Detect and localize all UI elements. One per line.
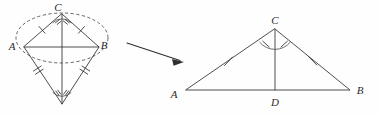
triangle-abc [186,29,350,90]
arrow-shaft [127,43,180,61]
left-figure-label-c: C [54,1,62,13]
geometry-figure: C A B C A B [0,0,379,115]
right-figure-label-a: A [170,88,178,100]
transform-arrow [127,43,184,66]
tick-side-ac [225,57,233,66]
left-construction-figure: C A B [8,1,108,104]
apex-angle-tick-left-2 [57,21,61,24]
right-figure-label-d: D [270,96,279,108]
tick-side-bc [309,57,317,66]
left-figure-label-a: A [8,40,16,52]
right-figure-label-b: B [357,84,364,96]
right-result-figure: C A B D [170,14,364,108]
right-figure-label-c: C [271,14,279,26]
diagram-canvas: C A B C A B [0,0,379,115]
apex-angle-tick-right [63,21,67,24]
left-figure-label-b: B [101,39,108,51]
